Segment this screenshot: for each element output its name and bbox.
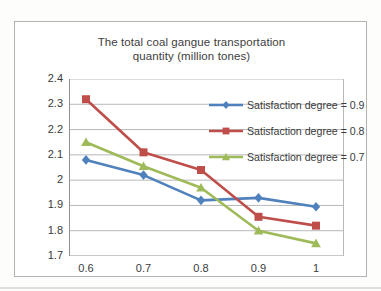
figure-scan: The total coal gangue transportation qua… [0, 0, 381, 291]
y-axis-tick-label: 2 [23, 173, 63, 185]
chart-title-line-1: The total coal gangue transportation [15, 36, 368, 50]
y-axis-tick-label: 2.2 [23, 123, 63, 135]
y-axis-tick-label: 1.8 [23, 224, 63, 236]
legend-diamond-marker-icon [208, 99, 244, 111]
legend-square-marker-icon [208, 125, 244, 137]
x-axis-tick-label: 0.8 [181, 262, 221, 274]
y-axis-tick-label: 2.3 [23, 97, 63, 109]
scan-artifact-line [0, 287, 381, 289]
x-axis-tick-label: 0.9 [239, 262, 279, 274]
y-axis-tick-label: 2.1 [23, 148, 63, 160]
legend-item: Satisfaction degree = 0.9 [208, 98, 365, 112]
chart-title: The total coal gangue transportation qua… [15, 36, 368, 63]
y-axis-tick-label: 1.7 [23, 249, 63, 261]
legend-item: Satisfaction degree = 0.8 [208, 124, 365, 138]
legend-label: Satisfaction degree = 0.7 [247, 151, 365, 163]
y-axis-tick-label: 1.9 [23, 198, 63, 210]
chart-frame: The total coal gangue transportation qua… [14, 21, 367, 277]
legend-label: Satisfaction degree = 0.8 [247, 125, 365, 137]
legend-triangle-marker-icon [208, 151, 244, 163]
y-axis-tick-label: 2.4 [23, 72, 63, 84]
x-axis-tick-label: 0.6 [66, 262, 106, 274]
legend-item: Satisfaction degree = 0.7 [208, 150, 365, 164]
chart-title-line-2: quantity (million tones) [15, 50, 368, 64]
x-axis-tick-label: 0.7 [124, 262, 164, 274]
x-axis-tick-label: 1 [296, 262, 336, 274]
legend-label: Satisfaction degree = 0.9 [247, 99, 365, 111]
